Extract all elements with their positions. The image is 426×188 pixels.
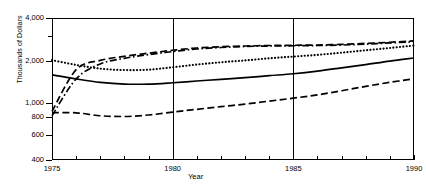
chart-container: Thousands of Dollars Year 4,0002,0001,00… <box>0 0 426 188</box>
y-tick-label-600: 600 <box>0 130 44 139</box>
x-axis-title: Year <box>188 172 203 181</box>
y-tick-label-1000: 1,000 <box>0 98 44 107</box>
x-tick-label-1985: 1985 <box>285 164 302 173</box>
series-layer <box>52 18 414 160</box>
x-tick-1990 <box>414 155 415 160</box>
y-tick-400 <box>46 160 52 161</box>
y-tick-label-800: 800 <box>0 112 44 121</box>
y-tick-label-2000: 2,000 <box>0 56 44 65</box>
series-line-dotted-series <box>52 46 414 71</box>
x-tick-label-1980: 1980 <box>164 164 181 173</box>
x-tick-label-1975: 1975 <box>44 164 61 173</box>
y-tick-label-4000: 4,000 <box>0 13 44 22</box>
series-line-dashed-lower-series <box>52 79 414 117</box>
y-tick-label-400: 400 <box>0 155 44 164</box>
plot-area: 4,0002,0001,000800600400 197519801985199… <box>52 18 414 160</box>
series-line-dashed-upper-series <box>52 41 414 112</box>
x-tick-label-1990: 1990 <box>406 164 423 173</box>
